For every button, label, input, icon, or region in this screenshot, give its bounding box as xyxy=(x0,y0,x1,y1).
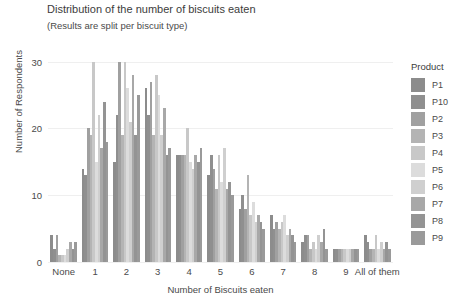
bar-group xyxy=(301,55,327,262)
legend-swatch xyxy=(411,78,425,92)
bar xyxy=(200,148,203,262)
bar xyxy=(357,249,360,262)
bar-group xyxy=(51,55,77,262)
legend-label: P10 xyxy=(432,97,448,107)
legend-swatch xyxy=(411,146,425,160)
legend-item-p2[interactable]: P2 xyxy=(411,110,467,127)
bar xyxy=(106,142,109,262)
legend-label: P6 xyxy=(432,182,443,192)
bar xyxy=(325,249,328,262)
legend-item-p9[interactable]: P9 xyxy=(411,229,467,246)
y-axis-tick: 10 xyxy=(0,190,42,201)
legend-label: P9 xyxy=(432,233,443,243)
legend-item-p5[interactable]: P5 xyxy=(411,161,467,178)
bar xyxy=(388,249,391,262)
bar xyxy=(262,229,265,262)
legend-swatch xyxy=(411,163,425,177)
legend-title: Product xyxy=(411,61,467,72)
x-axis-tick: 6 xyxy=(249,266,254,277)
legend-label: P8 xyxy=(432,216,443,226)
legend-item-p6[interactable]: P6 xyxy=(411,178,467,195)
bar-group xyxy=(333,55,359,262)
chart-title: Distribution of the number of biscuits e… xyxy=(47,3,256,15)
x-axis-tick: 3 xyxy=(155,266,160,277)
legend-item-p3[interactable]: P3 xyxy=(411,127,467,144)
legend-swatch xyxy=(411,197,425,211)
bar-group xyxy=(239,55,265,262)
legend-swatch xyxy=(411,95,425,109)
y-axis-tick: 0 xyxy=(0,257,42,268)
x-axis-tick: 4 xyxy=(186,266,191,277)
legend-item-p10[interactable]: P10 xyxy=(411,93,467,110)
bar xyxy=(231,195,234,262)
bar-group xyxy=(207,55,233,262)
x-axis-tick: 8 xyxy=(312,266,317,277)
legend-rows: P1P10P2P3P4P5P6P7P8P9 xyxy=(411,76,467,246)
legend-swatch xyxy=(411,129,425,143)
legend-swatch xyxy=(411,214,425,228)
bar-group xyxy=(82,55,108,262)
bar-group xyxy=(270,55,296,262)
bar-group xyxy=(113,55,139,262)
legend-swatch xyxy=(411,112,425,126)
x-axis-tick: 9 xyxy=(343,266,348,277)
bar xyxy=(74,242,77,262)
x-axis-tick: 5 xyxy=(218,266,223,277)
bar-group xyxy=(176,55,202,262)
legend-label: P1 xyxy=(432,80,443,90)
bar xyxy=(294,242,297,262)
legend: Product P1P10P2P3P4P5P6P7P8P9 xyxy=(411,61,467,246)
x-axis-tick: 2 xyxy=(124,266,129,277)
x-axis-tick: All of them xyxy=(355,266,400,277)
bar-group xyxy=(145,55,171,262)
legend-swatch xyxy=(411,180,425,194)
legend-label: P2 xyxy=(432,114,443,124)
bar-group xyxy=(364,55,390,262)
x-axis-tick: None xyxy=(52,266,75,277)
legend-swatch xyxy=(411,231,425,245)
x-axis-tick: 7 xyxy=(281,266,286,277)
bar xyxy=(137,95,140,262)
legend-label: P3 xyxy=(432,131,443,141)
chart-subtitle: (Results are split per biscuit type) xyxy=(47,20,187,31)
legend-label: P5 xyxy=(432,165,443,175)
legend-item-p7[interactable]: P7 xyxy=(411,195,467,212)
x-axis-tick: 1 xyxy=(92,266,97,277)
legend-item-p8[interactable]: P8 xyxy=(411,212,467,229)
legend-item-p4[interactable]: P4 xyxy=(411,144,467,161)
legend-item-p1[interactable]: P1 xyxy=(411,76,467,93)
legend-label: P4 xyxy=(432,148,443,158)
gridline xyxy=(48,262,393,263)
plot-area xyxy=(48,55,393,262)
chart-root: Distribution of the number of biscuits e… xyxy=(0,0,467,301)
x-axis-label: Number of Biscuits eaten xyxy=(48,284,393,295)
y-axis-label: Number of Respondents xyxy=(13,22,24,182)
bar xyxy=(168,148,171,262)
legend-label: P7 xyxy=(432,199,443,209)
